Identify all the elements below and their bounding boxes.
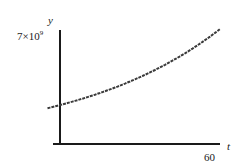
- y-axis-label: y: [47, 14, 53, 26]
- x-max-tick-label: 60: [204, 151, 216, 163]
- chart: y 7×109 t 60: [0, 0, 240, 167]
- y-max-exponent: 9: [40, 29, 44, 37]
- data-curve: [48, 29, 221, 108]
- y-max-tick-label: 7×109: [17, 29, 44, 42]
- x-axis-label: t: [227, 140, 231, 152]
